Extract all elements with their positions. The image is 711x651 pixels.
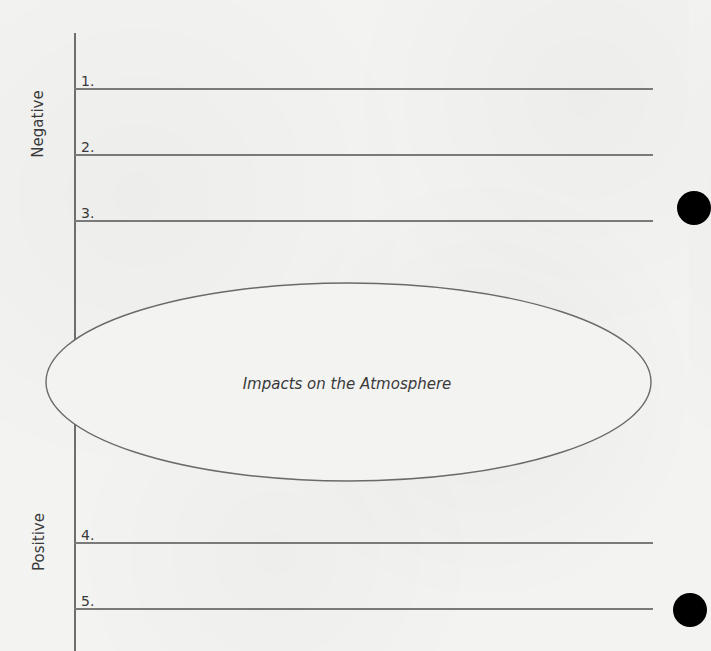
center-topic-label: Impacts on the Atmosphere — [243, 377, 452, 392]
item-number: 4. — [81, 528, 94, 542]
answer-line[interactable] — [74, 542, 653, 544]
binder-hole-icon — [677, 191, 711, 225]
binder-hole-icon — [673, 593, 707, 627]
item-number: 5. — [81, 594, 94, 608]
answer-line[interactable] — [74, 608, 653, 610]
